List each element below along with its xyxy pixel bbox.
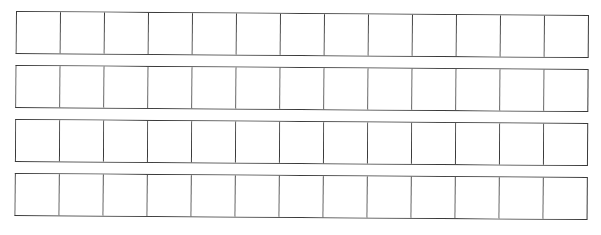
grid-cell[interactable] <box>413 15 457 56</box>
grid-cell[interactable] <box>544 70 588 111</box>
grid-cell[interactable] <box>545 16 589 57</box>
grid-cell[interactable] <box>280 68 324 109</box>
grid-cell[interactable] <box>280 122 324 163</box>
grid-cell[interactable] <box>192 175 236 216</box>
grid-cell[interactable] <box>280 176 324 217</box>
grid-cell[interactable] <box>237 14 281 55</box>
grid-row-3 <box>15 119 588 166</box>
grid-cell[interactable] <box>456 123 500 164</box>
grid-cell[interactable] <box>17 12 61 53</box>
grid-cell[interactable] <box>412 69 456 110</box>
grid-cell[interactable] <box>236 122 280 163</box>
grid-cell[interactable] <box>193 13 237 54</box>
grid-cell[interactable] <box>500 123 544 164</box>
grid-cell[interactable] <box>544 124 588 165</box>
grid-cell[interactable] <box>500 177 544 218</box>
grid-cell[interactable] <box>148 67 192 108</box>
grid-cell[interactable] <box>368 68 412 109</box>
grid-cell[interactable] <box>412 177 456 218</box>
grid-row-2 <box>15 65 588 112</box>
grid-cell[interactable] <box>369 14 413 55</box>
grid-cell[interactable] <box>60 120 104 161</box>
grid-cell[interactable] <box>281 14 325 55</box>
grid-cell[interactable] <box>104 121 148 162</box>
grid-cell[interactable] <box>324 68 368 109</box>
grid-cell[interactable] <box>368 122 412 163</box>
grid-cell[interactable] <box>412 123 456 164</box>
grid-cell[interactable] <box>192 67 236 108</box>
grid-cell[interactable] <box>456 69 500 110</box>
grid-cell[interactable] <box>104 67 148 108</box>
grid-cell[interactable] <box>16 174 60 215</box>
grid-cell[interactable] <box>149 13 193 54</box>
grid-cell[interactable] <box>148 121 192 162</box>
grid-cell[interactable] <box>16 66 60 107</box>
grid-cell[interactable] <box>501 15 545 56</box>
grid-cell[interactable] <box>456 177 500 218</box>
worksheet <box>0 0 601 235</box>
grid-cell[interactable] <box>324 176 368 217</box>
grid-cell[interactable] <box>368 176 412 217</box>
grid-cell[interactable] <box>325 14 369 55</box>
grid-cell[interactable] <box>457 15 501 56</box>
grid-cell[interactable] <box>104 175 148 216</box>
grid-cell[interactable] <box>60 174 104 215</box>
grid-cell[interactable] <box>324 122 368 163</box>
grid-cell[interactable] <box>16 120 60 161</box>
grid-cell[interactable] <box>192 121 236 162</box>
grid-cell[interactable] <box>148 175 192 216</box>
grid-cell[interactable] <box>544 178 588 219</box>
grid-cell[interactable] <box>236 176 280 217</box>
grid-row-4 <box>15 173 588 220</box>
grid-cell[interactable] <box>105 13 149 54</box>
grid-cell[interactable] <box>500 69 544 110</box>
grid-cell[interactable] <box>61 12 105 53</box>
grid-cell[interactable] <box>60 66 104 107</box>
grid-row-1 <box>16 11 589 58</box>
grid-cell[interactable] <box>236 68 280 109</box>
